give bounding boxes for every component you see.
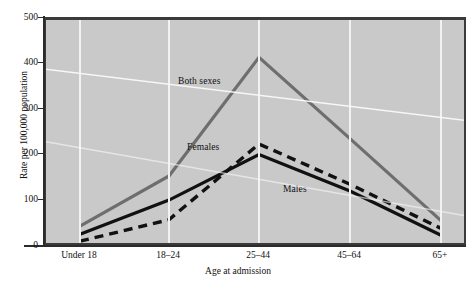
plot-inner: Both sexes Females Males — [46, 20, 464, 243]
y-tick-mark-0 — [38, 245, 44, 246]
x-tick-18-24: 18–24 — [156, 250, 180, 261]
x-tick-65-plus: 65+ — [433, 250, 448, 261]
line-chart: Both sexes Females Males 500 400 300 200… — [0, 0, 476, 282]
x-axis-title: Age at admission — [0, 266, 476, 276]
scan-crease-artifact — [46, 20, 464, 243]
y-tick-mark-400 — [38, 62, 44, 63]
y-tick-label: 0 — [4, 240, 38, 250]
y-tick-mark-300 — [38, 108, 44, 109]
y-tick-label: 500 — [4, 12, 38, 22]
y-tick-mark-200 — [38, 153, 44, 154]
y-tick-mark-500 — [38, 17, 44, 18]
x-axis-line — [24, 245, 466, 247]
y-axis-title: Rate per 100,000 population — [19, 35, 29, 215]
y-axis-line — [43, 16, 45, 246]
plot-area: Both sexes Females Males — [44, 17, 466, 245]
x-tick-45-64: 45–64 — [337, 250, 361, 261]
y-tick-mark-100 — [38, 199, 44, 200]
x-tick-under-18: Under 18 — [61, 250, 97, 261]
y-tick-500: 500 — [0, 12, 38, 22]
x-tick-25-44: 25–44 — [246, 250, 270, 261]
y-tick-0: 0 — [0, 240, 38, 250]
